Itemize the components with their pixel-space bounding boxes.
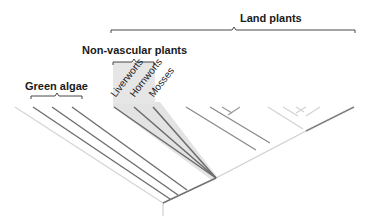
- vascular-branch-3: [222, 107, 232, 113]
- seed-branch-5: [306, 107, 320, 116]
- vascular-branch-2: [210, 107, 270, 143]
- green-algae-label: Green algae: [25, 80, 88, 92]
- seed-branch-1: [268, 107, 303, 129]
- non-vascular-label: Non-vascular plants: [82, 44, 187, 56]
- land-plants-bracket: [111, 27, 355, 33]
- backbone-dark-right: [306, 107, 354, 131]
- cladogram: [0, 0, 368, 224]
- green-algae-bracket: [31, 93, 82, 99]
- seed-branch-2: [283, 107, 298, 116]
- land-plants-label: Land plants: [240, 12, 302, 24]
